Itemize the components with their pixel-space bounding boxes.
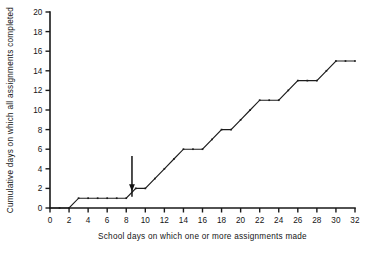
y-tick-label-14: 14	[33, 67, 43, 76]
axis-spines	[50, 12, 355, 208]
y-tick-label-4: 4	[38, 165, 43, 174]
data-point	[97, 197, 99, 199]
data-point	[297, 80, 299, 82]
data-point	[335, 60, 337, 62]
data-point	[316, 80, 318, 82]
data-point	[221, 129, 223, 131]
x-tick-label-10: 10	[141, 216, 151, 225]
data-point	[116, 197, 118, 199]
data-point	[135, 188, 137, 190]
data-point	[211, 139, 213, 141]
x-tick-label-26: 26	[293, 216, 303, 225]
data-point	[154, 178, 156, 180]
data-point	[59, 207, 61, 209]
data-point	[345, 60, 347, 62]
x-axis-title: School days on which one or more assignm…	[98, 232, 307, 241]
x-tick-label-0: 0	[48, 216, 53, 225]
x-tick-label-16: 16	[198, 216, 208, 225]
data-point	[306, 80, 308, 82]
data-point	[173, 158, 175, 160]
x-tick-label-30: 30	[331, 216, 341, 225]
x-tick-label-32: 32	[350, 216, 360, 225]
data-point	[230, 129, 232, 131]
x-tick-label-2: 2	[67, 216, 72, 225]
data-point	[106, 197, 108, 199]
y-tick-label-0: 0	[38, 204, 43, 213]
data-point	[68, 207, 70, 209]
x-tick-label-24: 24	[274, 216, 284, 225]
data-point	[278, 99, 280, 101]
data-point	[268, 99, 270, 101]
y-tick-label-6: 6	[38, 145, 43, 154]
y-tick-label-20: 20	[33, 8, 43, 17]
x-tick-label-28: 28	[312, 216, 322, 225]
y-tick-label-10: 10	[33, 106, 43, 115]
x-tick-label-12: 12	[160, 216, 170, 225]
data-point	[326, 70, 328, 72]
data-point	[87, 197, 89, 199]
cumulative-record-chart: 0246810121416182002468101214161820222426…	[0, 0, 373, 257]
y-tick-label-8: 8	[38, 126, 43, 135]
data-point	[259, 99, 261, 101]
data-point	[202, 148, 204, 150]
data-point	[287, 90, 289, 92]
x-tick-label-8: 8	[124, 216, 129, 225]
data-series-0	[50, 61, 355, 208]
x-tick-label-20: 20	[236, 216, 246, 225]
x-tick-label-14: 14	[179, 216, 189, 225]
data-point	[354, 60, 356, 62]
x-tick-label-6: 6	[105, 216, 110, 225]
x-tick-label-22: 22	[255, 216, 265, 225]
data-point	[240, 119, 242, 121]
data-point	[78, 197, 80, 199]
chart-figure: 0246810121416182002468101214161820222426…	[0, 0, 373, 257]
y-tick-label-18: 18	[33, 28, 43, 37]
data-point	[249, 109, 251, 111]
x-tick-label-4: 4	[86, 216, 91, 225]
data-point	[144, 188, 146, 190]
x-tick-label-18: 18	[217, 216, 227, 225]
y-axis-title: Cumulative days on which all assignments…	[6, 7, 15, 214]
data-point	[183, 148, 185, 150]
data-point	[125, 197, 127, 199]
data-point	[192, 148, 194, 150]
y-tick-label-16: 16	[33, 47, 43, 56]
y-tick-label-2: 2	[38, 184, 43, 193]
data-point	[164, 168, 166, 170]
y-tick-label-12: 12	[33, 86, 43, 95]
data-point	[49, 207, 51, 209]
